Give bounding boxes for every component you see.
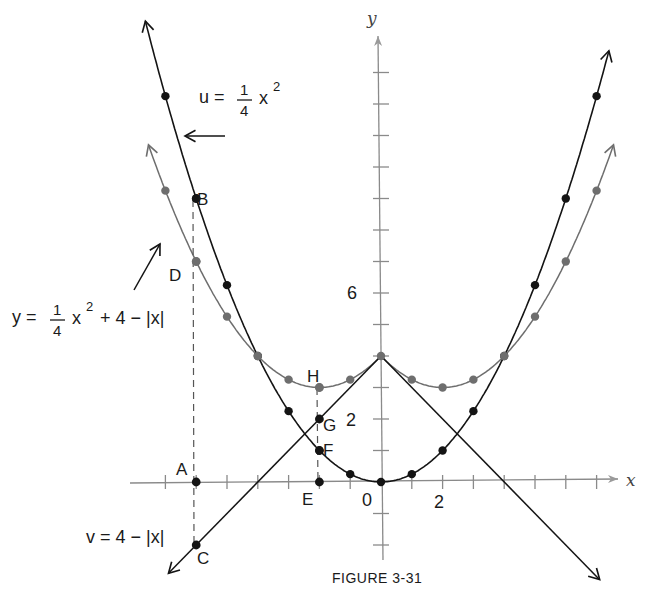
data-point-y	[531, 312, 539, 320]
data-point-y	[592, 186, 600, 194]
data-point-u	[161, 92, 169, 100]
data-point-y	[562, 257, 570, 265]
point-label-b: B	[197, 190, 208, 209]
point-label-d: D	[169, 266, 181, 285]
data-point-y	[254, 352, 262, 360]
data-point-u	[377, 478, 385, 486]
data-point-y	[438, 383, 446, 391]
data-point-y	[500, 352, 508, 360]
point-label-c: C	[197, 549, 209, 568]
equation-y: y = 1 4 x 2 + 4 − |x|	[12, 299, 164, 339]
equation-u-numerator: 1	[240, 81, 248, 98]
tick-label-y-6: 6	[347, 283, 357, 303]
figure-caption: FIGURE 3-31	[332, 570, 422, 586]
equation-u-exponent: 2	[273, 79, 280, 94]
data-point-u	[408, 470, 416, 478]
point-label-g: G	[323, 416, 336, 435]
data-point-u	[223, 281, 231, 289]
data-point-y	[469, 375, 477, 383]
data-point-y	[284, 375, 292, 383]
equation-y-variable: x	[72, 308, 81, 328]
dashed-guide-x-neg2	[317, 388, 318, 484]
point-a	[192, 478, 201, 487]
data-point-y	[223, 312, 231, 320]
equation-y-rest: + 4 − |x|	[100, 308, 164, 328]
point-d	[192, 257, 201, 266]
data-point-y	[408, 375, 416, 383]
equation-y-exponent: 2	[86, 299, 93, 314]
data-point-u	[531, 281, 539, 289]
tick-label-x-2: 2	[434, 492, 444, 512]
curve-y-left	[149, 145, 382, 388]
point-e	[315, 478, 324, 487]
curve-u-right	[381, 51, 609, 482]
y-axis-label: y	[366, 8, 377, 28]
equation-u-lhs: u =	[199, 87, 225, 107]
equation-v: v = 4 − |x|	[86, 527, 164, 547]
pointer-arrow-y	[134, 244, 160, 290]
equation-y-lhs: y =	[12, 307, 37, 327]
tick-label-origin: 0	[362, 490, 372, 510]
data-point-y	[377, 352, 385, 360]
equation-u-denominator: 4	[240, 102, 248, 119]
equation-y-denominator: 4	[53, 322, 61, 339]
point-label-e: E	[302, 490, 313, 509]
dashed-guide-x-neg6	[193, 200, 194, 545]
tick-label-y-2: 2	[346, 410, 356, 430]
x-axis-label: x	[626, 470, 636, 490]
data-point-u	[469, 407, 477, 415]
data-point-u	[592, 92, 600, 100]
point-label-a: A	[176, 460, 188, 479]
equation-u: u = 1 4 x 2	[199, 79, 280, 119]
point-label-f: F	[323, 441, 333, 460]
data-point-u	[562, 194, 570, 202]
data-point-u	[284, 407, 292, 415]
dashed-guides	[193, 200, 318, 545]
line-v-right	[381, 356, 600, 580]
data-point-u	[438, 446, 446, 454]
data-point-y	[161, 186, 169, 194]
data-point-u	[346, 470, 354, 478]
data-point-y	[346, 375, 354, 383]
point-label-h: H	[307, 367, 319, 386]
equation-u-variable: x	[259, 88, 268, 108]
figure-3-31: x y 0 2 2 6 A B C D E F G H u = 1 4 x 2 …	[0, 0, 650, 590]
equation-y-numerator: 1	[53, 301, 61, 318]
curve-y-right	[381, 145, 614, 388]
